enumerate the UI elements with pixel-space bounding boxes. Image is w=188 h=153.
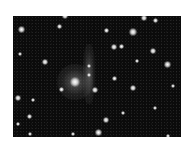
- star: [71, 132, 75, 136]
- star: [112, 76, 117, 81]
- star: [15, 95, 21, 101]
- star: [28, 132, 32, 136]
- star: [164, 61, 171, 68]
- sky-noise: [13, 16, 181, 137]
- star: [129, 28, 137, 36]
- star: [135, 59, 139, 63]
- star: [111, 44, 117, 50]
- star: [87, 73, 91, 77]
- star: [150, 48, 156, 54]
- star: [16, 122, 20, 126]
- star-field-image: [13, 16, 181, 137]
- star: [121, 111, 125, 115]
- star: [103, 117, 109, 123]
- star: [92, 87, 98, 93]
- star: [95, 129, 102, 136]
- star: [153, 18, 158, 23]
- star: [87, 64, 91, 68]
- star: [27, 114, 32, 119]
- star: [130, 85, 136, 91]
- star: [119, 44, 124, 49]
- star: [42, 59, 48, 65]
- star: [104, 28, 109, 33]
- central-galaxy: [70, 77, 80, 87]
- star: [59, 87, 64, 92]
- star: [166, 134, 170, 137]
- star: [153, 106, 157, 110]
- star: [18, 52, 22, 56]
- star: [31, 98, 35, 102]
- star: [57, 24, 62, 29]
- star: [171, 84, 175, 88]
- star: [18, 26, 25, 33]
